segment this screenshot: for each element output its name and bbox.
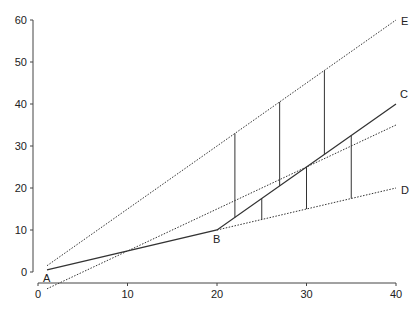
y-tick-label: 20 bbox=[15, 182, 27, 194]
point-label-c: C bbox=[400, 88, 408, 100]
y-tick-label: 50 bbox=[15, 56, 27, 68]
y-tick-label: 30 bbox=[15, 140, 27, 152]
x-tick-label: 40 bbox=[390, 288, 402, 300]
y-tick-label: 60 bbox=[15, 14, 27, 26]
point-label-a: A bbox=[43, 272, 51, 284]
series-middle bbox=[47, 125, 396, 289]
series-e bbox=[47, 20, 396, 266]
point-label-d: D bbox=[401, 184, 409, 196]
x-tick-label: 10 bbox=[121, 288, 133, 300]
point-label-e: E bbox=[401, 15, 408, 27]
y-tick-label: 40 bbox=[15, 98, 27, 110]
x-tick-label: 20 bbox=[211, 288, 223, 300]
x-tick-label: 0 bbox=[35, 288, 41, 300]
y-tick-label: 10 bbox=[15, 224, 27, 236]
y-tick-label: 0 bbox=[21, 266, 27, 278]
series-lines bbox=[47, 20, 396, 289]
point-label-b: B bbox=[213, 233, 220, 245]
series-a-b-c bbox=[47, 104, 396, 270]
line-chart: 0102030405060010203040 ABCDE bbox=[0, 0, 414, 311]
point-labels: ABCDE bbox=[43, 15, 409, 284]
x-tick-label: 30 bbox=[300, 288, 312, 300]
